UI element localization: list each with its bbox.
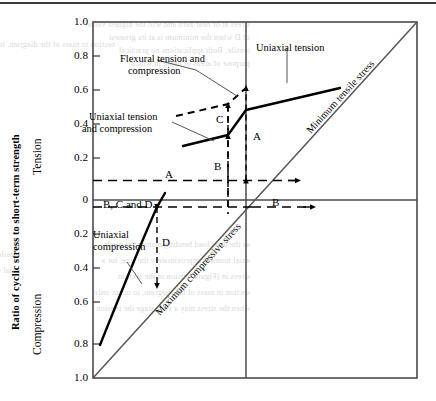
annotation-flexural-line2: compression: [128, 65, 181, 77]
label-C: C: [216, 113, 223, 125]
curve-flexural-tension-compression: [176, 88, 246, 116]
label-A-horizontal: A: [165, 168, 173, 180]
annotation-uniaxial-compression-line2: compression: [93, 241, 146, 253]
label-D: D: [162, 236, 170, 248]
label-BCD: B, C and D: [103, 198, 153, 210]
leader-flexural: [196, 70, 237, 96]
annotation-flexural-line1: Flexural tension and: [120, 53, 205, 65]
curve-uniaxial-compression: [100, 193, 165, 345]
fatigue-stress-range-chart: stress at or near zero and will the high…: [0, 0, 436, 401]
label-A-range: A: [253, 130, 261, 142]
label-B-range: B: [214, 160, 221, 172]
label-B-horizontal: B: [272, 196, 279, 208]
annotation-uniaxial-tc-line2: and compression: [82, 123, 152, 135]
annotation-uniaxial-tension: Uniaxial tension: [256, 42, 324, 54]
annotation-uniaxial-tc-line1: Uniaxial tension: [89, 111, 157, 123]
annotation-uniaxial-compression-line1: Uniaxial: [93, 229, 129, 241]
leader-uniaxial-tc: [172, 122, 214, 141]
